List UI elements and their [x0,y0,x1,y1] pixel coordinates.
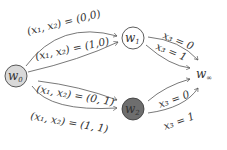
diagram: w0 w1 w2 w∞ (x₁, x₂) = (0,0) (x₁, x₂) = … [0,0,227,150]
node-w2: w2 [122,98,144,120]
node-winf: w∞ [196,67,212,82]
node-w1: w1 [122,27,144,49]
edge-label-w0-w2-b: (x₁, x₂) = (1, 1) [30,109,110,135]
edge-label-w0-w2-a: (x₁, x₂) = (0, 1) [36,82,116,108]
edge-label-w0-w1-a: (x₁, x₂) = (0,0) [26,7,102,37]
node-winf-label: w∞ [196,67,212,82]
node-w0: w0 [5,65,27,87]
edge-label-w2-winf-b: x₃ = 1 [162,110,196,132]
edge-label-w0-w1-b: (x₁, x₂) = (1,0) [34,35,110,62]
